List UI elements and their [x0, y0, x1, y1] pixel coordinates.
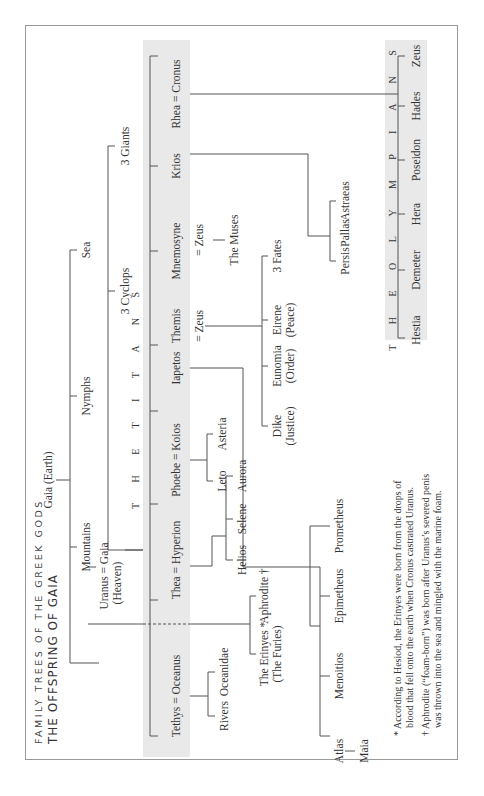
dike-label: Dike: [271, 415, 283, 437]
menoitios-label: Menoitios: [333, 653, 345, 700]
helios-label: Helios: [236, 545, 248, 575]
olympian-poseidon: Poseidon: [410, 139, 422, 181]
erinyes-label: The Erinyes *: [258, 622, 270, 687]
oceanidae-label: Oceanidae: [218, 648, 230, 697]
astraeas-label: Astraeas: [339, 181, 351, 221]
aurora-label: Aurora: [236, 460, 248, 493]
olympian-hera: Hera: [410, 203, 422, 225]
furies-label: (The Furies): [271, 625, 283, 682]
order-label: (Order): [284, 349, 296, 383]
selene-label: Selene: [236, 504, 248, 535]
mnemosyne-spouse-label: = Zeus: [193, 224, 205, 256]
pallas-label: Pallas: [339, 219, 351, 246]
footnote-aphrodite-line1: † Aphrodite (“foam-born”) was born after…: [420, 474, 432, 736]
asteria-label: Asteria: [216, 417, 228, 450]
titan-koios: Phoebe = Koios: [170, 423, 182, 497]
peace-label: (Peace): [284, 303, 296, 337]
titans-band-label: T H E T I T A N S: [130, 283, 142, 509]
giants-label: 3 Giants: [119, 127, 131, 166]
titan-cronus: Rhea = Cronus: [170, 59, 182, 128]
nymphs-label: Nymphs: [80, 377, 92, 416]
footnote-erinyes-line2: blood that fell onto the earth when Cron…: [404, 487, 416, 728]
atlas-label: Atlas: [333, 739, 345, 763]
persis-label: Persis: [339, 247, 351, 274]
olympian-hestia: Hestia: [410, 315, 422, 344]
prometheus-label: Prometheus: [333, 499, 345, 553]
footnote-aphrodite-line2: was thrown into the sea and mingled with…: [432, 491, 444, 728]
titan-krios: Krios: [170, 153, 182, 179]
heaven-label: (Heaven): [111, 562, 123, 605]
olympian-demeter: Demeter: [410, 250, 422, 290]
eunomia-label: Eunomia: [271, 345, 283, 387]
titan-mnemosyne: Mnemosyne: [170, 223, 182, 280]
titan-hyperion: Thea = Hyperion: [170, 521, 182, 600]
sea-label: Sea: [80, 242, 92, 259]
muses-label: The Muses: [228, 215, 240, 266]
fates-label: 3 Fates: [271, 240, 283, 273]
maia-label: Maia: [358, 739, 370, 763]
olympians-band-label: T H E O L Y M P I A N S: [387, 41, 399, 351]
justice-label: (Justice): [284, 407, 296, 446]
footnote-erinyes-line1: * According to Hesiod, the Erinyes were …: [392, 481, 404, 737]
leto-label: Leto: [216, 470, 228, 491]
eirene-label: Eirene: [271, 305, 283, 335]
titan-themis: Themis: [170, 309, 182, 344]
titan-iapetos: Iapetos: [170, 351, 182, 384]
olympian-hades: Hades: [410, 92, 422, 121]
titan-oceanus: Tethys = Oceanus: [170, 655, 182, 737]
gaia-label: Gaia (Earth): [42, 451, 54, 508]
themis-spouse-label: = Zeus: [193, 310, 205, 342]
family-tree-page: FAMILY TREES OF THE GREEK GODS THE OFFSP…: [0, 0, 484, 796]
uranus-gaia-label: Uranus = Gaia: [98, 542, 110, 609]
supertitle: FAMILY TREES OF THE GREEK GODS: [33, 499, 44, 744]
epimetheus-label: Epimetheus: [333, 569, 345, 623]
rivers-label: Rivers: [218, 701, 230, 731]
mountains-label: Mountains: [80, 522, 92, 571]
page-title: THE OFFSPRING OF GAIA: [46, 574, 60, 744]
olympian-zeus: Zeus: [410, 45, 422, 67]
aphrodite-label: Aphrodite †: [258, 568, 270, 623]
